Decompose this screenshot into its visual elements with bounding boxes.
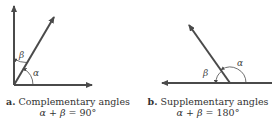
caption-a: a. Complementary angles α + β = 90° <box>0 96 136 118</box>
caption-b-text: Supplementary angles <box>160 96 268 107</box>
complementary-figure: α β <box>14 6 92 85</box>
caption-b-letter: b. <box>148 96 158 107</box>
beta-label: β <box>18 50 24 60</box>
caption-a-letter: a. <box>6 96 15 107</box>
alpha-label: α <box>33 68 39 78</box>
beta-arc <box>216 71 222 83</box>
supplementary-figure: α β <box>162 25 272 83</box>
diagonal-ray <box>189 25 230 83</box>
caption-b-eq-rhs: 180° <box>217 107 240 118</box>
caption-b-eq-sign: = <box>203 107 217 118</box>
caption-a-title: a. Complementary angles <box>0 96 136 107</box>
caption-b-title: b. Supplementary angles <box>144 96 272 107</box>
caption-a-eq-rhs: 90° <box>80 107 97 118</box>
caption-a-equation: α + β = 90° <box>0 107 136 118</box>
caption-b: b. Supplementary angles α + β = 180° <box>144 96 272 118</box>
caption-a-eq-lhs: α + β <box>40 107 66 118</box>
caption-b-equation: α + β = 180° <box>144 107 272 118</box>
caption-a-eq-sign: = <box>66 107 80 118</box>
alpha-label: α <box>237 58 243 68</box>
caption-a-text: Complementary angles <box>19 96 130 107</box>
alpha-arc <box>24 69 34 85</box>
caption-b-eq-lhs: α + β <box>177 107 203 118</box>
beta-label: β <box>202 68 208 78</box>
